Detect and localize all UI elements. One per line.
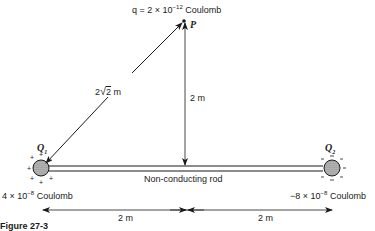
charge2-prefix: −8 × 10 — [290, 191, 321, 201]
right-span-label: 2 m — [258, 214, 273, 223]
figure-caption: Figure 27-3 — [0, 221, 48, 231]
vertical-distance-label: 2 m — [190, 94, 205, 103]
non-conducting-rod — [48, 166, 323, 171]
charge-q1-sphere: + + + + + + — [27, 151, 53, 186]
charge2-unit: Coulomb — [327, 191, 366, 201]
charge-q2-sphere — [321, 156, 346, 180]
svg-text:+: + — [39, 179, 43, 186]
charge1-exponent: −8 — [27, 190, 34, 196]
charge1-unit: Coulomb — [34, 191, 73, 201]
test-charge-exponent: −12 — [173, 4, 183, 10]
point-p-label: P — [190, 20, 196, 30]
q1-label: Q1 — [37, 143, 47, 155]
svg-text:+: + — [30, 154, 34, 161]
q2-subscript: 2 — [332, 149, 335, 155]
svg-text:+: + — [49, 175, 53, 182]
charge2-value: −8 × 10−8 Coulomb — [290, 192, 366, 201]
charge1-value: 4 × 10−8 Coulomb — [2, 192, 73, 201]
test-charge-prefix: q = 2 × 10 — [132, 5, 173, 15]
rod-label: Non-conducting rod — [144, 175, 223, 184]
svg-text:+: + — [27, 165, 31, 172]
test-charge-unit: Coulomb — [183, 5, 222, 15]
diagonal-distance-label: 2√2 m — [95, 86, 121, 97]
q1-subscript: 1 — [44, 149, 47, 155]
charge1-prefix: 4 × 10 — [2, 191, 27, 201]
diagonal-unit: m — [111, 87, 121, 97]
left-span-label: 2 m — [118, 214, 133, 223]
svg-text:+: + — [30, 175, 34, 182]
point-p-dot — [182, 19, 186, 23]
q2-label: Q2 — [325, 143, 335, 155]
test-charge-label: q = 2 × 10−12 Coulomb — [132, 6, 221, 15]
charge2-exponent: −8 — [321, 190, 328, 196]
